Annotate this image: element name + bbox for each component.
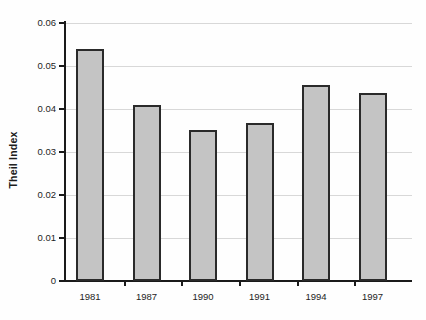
gridline bbox=[66, 23, 412, 24]
x-tick-mark bbox=[239, 281, 241, 286]
y-tick-mark bbox=[59, 151, 65, 153]
bar bbox=[359, 93, 387, 281]
y-tick-label: 0.04 bbox=[0, 103, 56, 114]
x-tick-label: 1997 bbox=[343, 291, 403, 302]
x-tick-mark bbox=[297, 281, 299, 286]
y-axis-title: Theil Index bbox=[0, 0, 26, 320]
y-tick-label: 0.03 bbox=[0, 146, 56, 157]
y-tick-mark bbox=[59, 280, 65, 282]
x-tick-label: 1981 bbox=[60, 291, 120, 302]
y-tick-mark bbox=[59, 65, 65, 67]
y-tick-mark bbox=[59, 194, 65, 196]
bar-chart-figure: Theil Index 00.010.020.030.040.050.06198… bbox=[0, 0, 426, 320]
x-tick-label: 1991 bbox=[230, 291, 290, 302]
bar bbox=[189, 130, 217, 281]
gridline bbox=[66, 66, 412, 67]
bar bbox=[76, 49, 104, 281]
y-tick-label: 0.01 bbox=[0, 232, 56, 243]
plot-area bbox=[66, 23, 412, 281]
y-tick-mark bbox=[59, 108, 65, 110]
y-tick-label: 0.05 bbox=[0, 60, 56, 71]
y-tick-label: 0.06 bbox=[0, 17, 56, 28]
x-tick-mark bbox=[124, 281, 126, 286]
bar bbox=[133, 105, 161, 281]
x-tick-label: 1990 bbox=[173, 291, 233, 302]
y-tick-mark bbox=[59, 22, 65, 24]
x-tick-label: 1987 bbox=[117, 291, 177, 302]
bar bbox=[302, 85, 330, 281]
x-tick-mark bbox=[354, 281, 356, 286]
y-tick-label: 0.02 bbox=[0, 189, 56, 200]
y-tick-mark bbox=[59, 237, 65, 239]
bar bbox=[246, 123, 274, 281]
x-tick-label: 1994 bbox=[286, 291, 346, 302]
y-tick-label: 0 bbox=[0, 275, 56, 286]
x-tick-mark bbox=[181, 281, 183, 286]
